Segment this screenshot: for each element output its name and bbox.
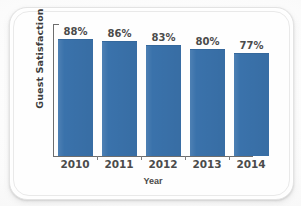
- bar-2014: [234, 53, 269, 156]
- bar-group-2012: 83%: [146, 24, 181, 156]
- x-axis-title: Year: [53, 176, 253, 186]
- bar-group-2013: 80%: [190, 24, 225, 156]
- bar-2012: [146, 45, 181, 156]
- y-axis-title: Guest Satisfaction: [34, 4, 45, 114]
- bar-value-label-2012: 83%: [140, 32, 187, 43]
- bar-2013: [190, 49, 225, 156]
- bar-chart: Guest Satisfaction 88% 86% 83% 80% 77%: [0, 0, 301, 206]
- bar-value-label-2013: 80%: [184, 36, 231, 47]
- bar-2010: [58, 39, 93, 156]
- chart-page: Guest Satisfaction 88% 86% 83% 80% 77%: [0, 0, 301, 206]
- bar-value-label-2011: 86%: [96, 28, 143, 39]
- x-tick-label-2013: 2013: [184, 158, 230, 170]
- bar-group-2011: 86%: [102, 24, 137, 156]
- bar-value-label-2010: 88%: [52, 26, 99, 37]
- bar-group-2014: 77%: [234, 24, 269, 156]
- bar-value-label-2014: 77%: [228, 40, 275, 51]
- bar-series: 88% 86% 83% 80% 77%: [53, 24, 253, 156]
- bar-group-2010: 88%: [58, 24, 93, 156]
- x-tick-label-2014: 2014: [228, 158, 274, 170]
- bar-2011: [102, 41, 137, 156]
- x-tick-label-2010: 2010: [52, 158, 98, 170]
- x-tick-label-2012: 2012: [140, 158, 186, 170]
- x-tick-label-2011: 2011: [96, 158, 142, 170]
- x-axis-line: [53, 156, 253, 157]
- x-axis-tick-labels: 2010 2011 2012 2013 2014: [53, 158, 253, 174]
